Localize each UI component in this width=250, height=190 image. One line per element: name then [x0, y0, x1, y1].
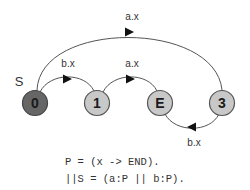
edge-label: b.x: [61, 58, 74, 69]
edge-label: a.x: [125, 11, 138, 22]
code-line-process-p: P = (x -> END).: [65, 156, 160, 168]
state-node-E: E: [148, 91, 173, 116]
svg-text:1: 1: [93, 95, 101, 111]
code-line-composite-s: ||S = (a:P || b:P).: [65, 173, 185, 185]
svg-text:0: 0: [31, 95, 39, 111]
arrow-icon: [63, 75, 72, 84]
arrow-icon: [187, 123, 196, 132]
svg-text:E: E: [155, 95, 164, 111]
edge-label: a.x: [125, 58, 138, 69]
state-node-1: 1: [85, 91, 110, 116]
svg-text:3: 3: [218, 95, 226, 111]
arrow-icon: [126, 75, 135, 84]
edge-label: b.x: [187, 137, 200, 148]
edge-1-to-E: a.x: [103, 58, 157, 92]
arrow-icon: [125, 28, 134, 37]
edge-3-to-E: b.x: [165, 114, 219, 148]
state-node-0: 0: [23, 91, 48, 116]
state-node-3: 3: [210, 91, 235, 116]
start-state-label: S: [15, 74, 24, 89]
